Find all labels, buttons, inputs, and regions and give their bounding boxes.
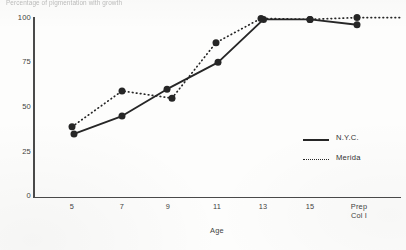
data-point [258,15,265,22]
legend-swatch-dotted-line-icon [303,159,329,160]
data-point [69,123,76,130]
legend-label: N.Y.C. [336,133,359,142]
data-point [169,95,176,102]
data-point [71,130,78,137]
legend-label: Merida [336,153,361,162]
data-point [213,39,220,46]
data-point [119,113,126,120]
legend-item-merida: Merida [303,152,403,172]
series-line-merida [72,18,400,127]
chart-legend: N.Y.C. Merida [303,132,403,172]
series-line-nyc [74,19,357,134]
data-point [119,87,126,94]
data-point [164,86,171,93]
plot-area [0,0,406,250]
data-point [354,21,361,28]
chart-page: Percentage of pigmentation with growth 1… [0,0,406,250]
data-point [354,14,361,21]
legend-swatch-solid-line-icon [303,139,329,141]
legend-item-nyc: N.Y.C. [303,132,403,152]
data-point [215,59,222,66]
data-point [307,16,314,23]
